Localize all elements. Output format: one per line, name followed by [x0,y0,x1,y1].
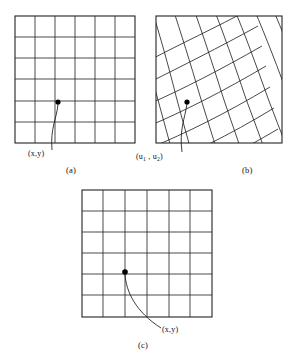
u-label-mid: , u [146,152,157,161]
panel-a-point-label: (x,y) [28,149,44,158]
panel-a-caption: (a) [66,165,76,175]
panel-a-grid [15,16,135,143]
panel-c-grid [82,190,212,317]
panel-a-point-marker [55,99,60,104]
panel-c-leader-line [125,274,161,328]
figure-canvas: (x,y) (u1 , u2) (x,y) (a) (b) (c) [0,0,297,362]
u-label-sub1: 1 [143,156,146,162]
panel-c-point-label: (x,y) [162,325,178,334]
panel-a-graphic [0,0,297,362]
panel-b-grid [134,4,297,210]
panel-b-point-marker [184,99,189,104]
panel-c-caption: (c) [138,340,148,350]
panel-b-caption: (b) [242,165,253,175]
panel-c-point-marker [122,269,128,275]
panel-b-point-label: (u1 , u2) [136,152,163,161]
u-label-sub2: 2 [157,156,160,162]
u-label-close: ) [160,152,163,161]
